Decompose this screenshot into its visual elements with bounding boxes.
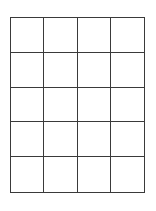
grid-cell xyxy=(78,88,111,123)
grid-cell xyxy=(11,122,44,157)
grid-cell xyxy=(78,157,111,192)
grid-cell xyxy=(11,18,44,53)
grid-cell xyxy=(11,157,44,192)
grid-cell xyxy=(44,18,77,53)
grid-cell xyxy=(11,88,44,123)
empty-grid-table xyxy=(10,17,145,193)
grid-cell xyxy=(111,122,144,157)
grid-cell xyxy=(111,157,144,192)
grid-cell xyxy=(78,122,111,157)
grid-cell xyxy=(78,18,111,53)
grid-cell xyxy=(44,88,77,123)
grid-cell xyxy=(111,88,144,123)
grid-cell xyxy=(11,53,44,88)
grid-cell xyxy=(78,53,111,88)
grid-cell xyxy=(44,122,77,157)
grid-cell xyxy=(44,53,77,88)
grid-cell xyxy=(111,18,144,53)
grid-cell xyxy=(111,53,144,88)
grid-cell xyxy=(44,157,77,192)
